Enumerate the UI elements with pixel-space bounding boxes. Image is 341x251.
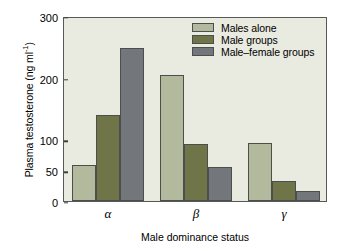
- x-axis-title: Male dominance status: [63, 231, 327, 243]
- y-axis-title-suffix: ): [23, 42, 35, 45]
- bar: [96, 115, 120, 201]
- legend-item[interactable]: Male groups: [192, 34, 314, 45]
- y-axis-title-exponent: -1: [21, 46, 30, 52]
- legend-label: Male–female groups: [221, 46, 314, 58]
- y-tick-mark: [64, 141, 68, 142]
- bar: [72, 165, 96, 201]
- y-tick-label: 0: [52, 197, 64, 209]
- bar: [272, 181, 296, 201]
- y-tick-mark: [64, 202, 68, 203]
- bar: [248, 143, 272, 201]
- y-axis-title-text: Plasma testosterone (ng ml: [23, 52, 35, 177]
- y-tick-mark: [64, 17, 68, 18]
- x-tick-label: α: [105, 206, 112, 222]
- figure: Plasma testosterone (ng ml-1) 0501002003…: [0, 0, 341, 251]
- y-tick-label: 300: [40, 12, 64, 24]
- x-tick-label: β: [193, 206, 199, 222]
- bar: [296, 191, 320, 201]
- y-tick-mark: [64, 171, 68, 172]
- legend-label: Male groups: [221, 34, 278, 46]
- x-tick-label: γ: [281, 206, 286, 222]
- bar: [160, 75, 184, 201]
- legend-swatch-male-female-groups: [192, 47, 214, 56]
- legend: Males alone Male groups Male–female grou…: [192, 22, 314, 57]
- bar: [208, 167, 232, 201]
- legend-item[interactable]: Male–female groups: [192, 46, 314, 57]
- y-tick-label: 50: [46, 166, 64, 178]
- legend-swatch-male-groups: [192, 35, 214, 44]
- legend-item[interactable]: Males alone: [192, 22, 314, 33]
- y-tick-mark: [64, 79, 68, 80]
- y-axis-title: Plasma testosterone (ng ml-1): [21, 15, 35, 205]
- bar: [120, 48, 144, 201]
- bar: [184, 144, 208, 201]
- legend-swatch-males-alone: [192, 23, 214, 32]
- y-tick-label: 100: [40, 135, 64, 147]
- plot-area: 050100200300 αβγ Males alone Male groups…: [63, 17, 327, 202]
- legend-label: Males alone: [221, 22, 277, 34]
- y-tick-label: 200: [40, 74, 64, 86]
